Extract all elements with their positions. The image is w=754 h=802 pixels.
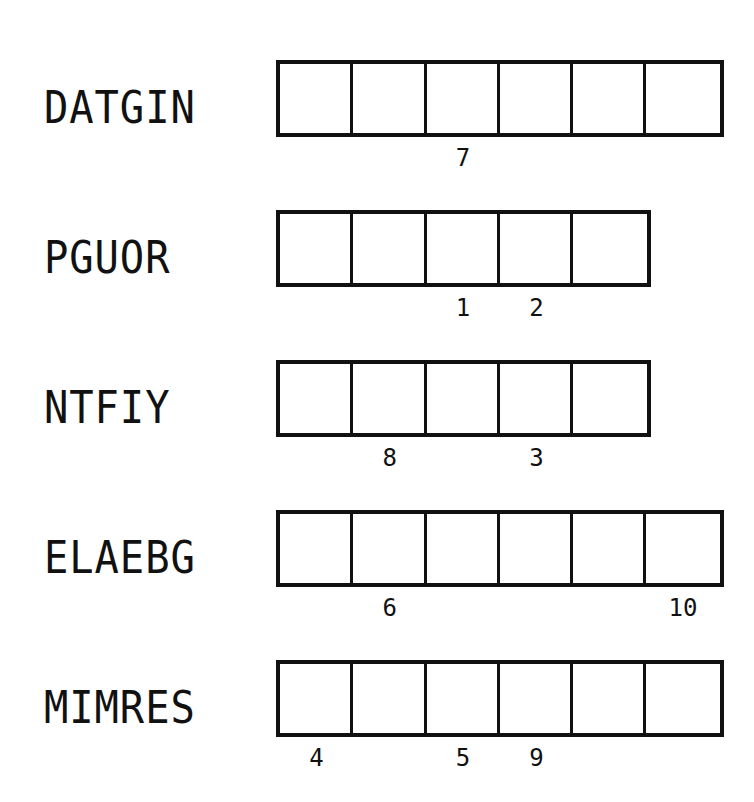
- letter-cell[interactable]: [500, 214, 573, 283]
- letter-cell[interactable]: [353, 514, 426, 583]
- scrambled-word: NTFIY: [44, 382, 170, 433]
- letter-cell[interactable]: [500, 64, 573, 133]
- letter-cell[interactable]: [427, 514, 500, 583]
- letter-cell[interactable]: [427, 214, 500, 283]
- letter-cell[interactable]: [353, 214, 426, 283]
- cell-number-label: 8: [353, 444, 426, 472]
- cell-number-label: 1: [427, 294, 500, 322]
- letter-cell[interactable]: [573, 214, 646, 283]
- cell-number-label: 2: [500, 294, 573, 322]
- letter-cell[interactable]: [427, 64, 500, 133]
- letter-cell[interactable]: [500, 514, 573, 583]
- cell-number-label: 7: [427, 144, 500, 172]
- cell-number-label: 3: [500, 444, 573, 472]
- letter-cell[interactable]: [280, 514, 353, 583]
- letter-cell[interactable]: [280, 364, 353, 433]
- scrambled-word: DATGIN: [44, 82, 196, 133]
- letter-cell[interactable]: [427, 664, 500, 733]
- letter-cell[interactable]: [573, 64, 646, 133]
- letter-cell[interactable]: [280, 664, 353, 733]
- letter-cell[interactable]: [500, 664, 573, 733]
- answer-boxes: [276, 360, 651, 437]
- letter-cell[interactable]: [353, 364, 426, 433]
- scrambled-word: ELAEBG: [44, 532, 196, 583]
- letter-cell[interactable]: [573, 364, 646, 433]
- letter-cell[interactable]: [280, 214, 353, 283]
- cell-number-label: 9: [500, 744, 573, 772]
- scrambled-word: MIMRES: [44, 682, 196, 733]
- letter-cell[interactable]: [646, 514, 719, 583]
- answer-boxes: [276, 210, 651, 287]
- letter-cell[interactable]: [353, 64, 426, 133]
- puzzle-row: MIMRES 459: [0, 660, 754, 802]
- cell-number-label: 10: [647, 594, 720, 622]
- cell-number-label: 6: [353, 594, 426, 622]
- cell-number-label: 5: [427, 744, 500, 772]
- letter-cell[interactable]: [573, 664, 646, 733]
- puzzle-row: DATGIN 7: [0, 60, 754, 210]
- answer-boxes: [276, 660, 724, 737]
- letter-cell[interactable]: [646, 64, 719, 133]
- letter-cell[interactable]: [500, 364, 573, 433]
- scrambled-word: PGUOR: [44, 232, 170, 283]
- answer-boxes: [276, 60, 724, 137]
- puzzle-row: ELAEBG 610: [0, 510, 754, 660]
- letter-cell[interactable]: [353, 664, 426, 733]
- puzzle-row: PGUOR 12: [0, 210, 754, 360]
- answer-boxes: [276, 510, 724, 587]
- letter-cell[interactable]: [280, 64, 353, 133]
- letter-cell[interactable]: [646, 664, 719, 733]
- cell-number-label: 4: [280, 744, 353, 772]
- letter-cell[interactable]: [573, 514, 646, 583]
- letter-cell[interactable]: [427, 364, 500, 433]
- puzzle-row: NTFIY 83: [0, 360, 754, 510]
